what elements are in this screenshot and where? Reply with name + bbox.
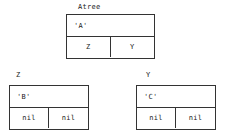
- node-label-right: Y: [146, 71, 151, 79]
- node-value-row-right: 'C': [137, 86, 215, 108]
- node-pointer-row-root: Z Y: [67, 37, 154, 57]
- tree-node-left: 'B' nil nil: [9, 85, 89, 130]
- node-value-root: 'A': [67, 22, 88, 30]
- node-left-pointer-root: Z: [67, 37, 111, 57]
- tree-node-root: 'A' Z Y: [66, 14, 155, 59]
- tree-node-right: 'C' nil nil: [136, 85, 216, 130]
- node-right-pointer-root: Y: [111, 37, 155, 57]
- node-value-right: 'C': [137, 93, 158, 101]
- node-value-left: 'B': [10, 93, 31, 101]
- node-right-pointer-right: nil: [176, 108, 215, 128]
- node-left-pointer-right: nil: [137, 108, 176, 128]
- node-right-pointer-left: nil: [49, 108, 88, 128]
- node-value-row-left: 'B': [10, 86, 88, 108]
- node-left-pointer-left: nil: [10, 108, 49, 128]
- node-pointer-row-right: nil nil: [137, 108, 215, 128]
- tree-diagram: Atree 'A' Z Y Z 'B' nil nil Y 'C' nil ni…: [0, 0, 231, 136]
- node-label-root: Atree: [78, 3, 101, 11]
- node-value-row-root: 'A': [67, 15, 154, 37]
- node-pointer-row-left: nil nil: [10, 108, 88, 128]
- node-label-left: Z: [16, 71, 21, 79]
